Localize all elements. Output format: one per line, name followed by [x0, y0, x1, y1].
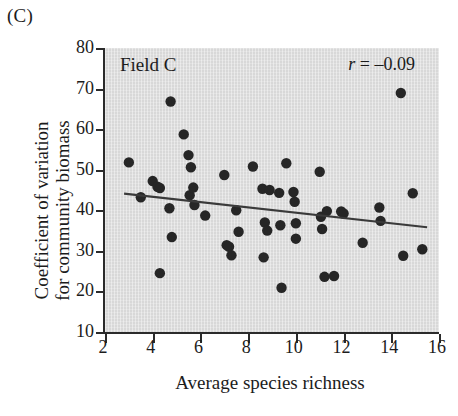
data-point: [258, 252, 268, 262]
data-point: [288, 187, 298, 197]
data-point: [167, 232, 177, 242]
data-point: [315, 167, 325, 177]
data-point: [317, 224, 327, 234]
data-point: [155, 268, 165, 278]
y-axis-tick: [96, 210, 105, 212]
data-points-group: [124, 88, 428, 293]
y-axis-tick: [96, 251, 105, 253]
data-point: [374, 202, 384, 212]
y-axis-tick-label: 20: [58, 281, 94, 302]
y-axis-tick-label: 60: [58, 118, 94, 139]
data-point: [417, 244, 427, 254]
data-point: [179, 129, 189, 139]
x-axis-tick-labels: 246810121416: [103, 337, 437, 363]
figure-panel-c: (C) Coefficient of variation for communi…: [0, 0, 458, 416]
y-axis-title-line1: Coefficient of variation: [31, 122, 52, 300]
y-axis-tick: [96, 48, 105, 50]
data-point: [183, 150, 193, 160]
data-point: [136, 192, 146, 202]
data-point: [188, 182, 198, 192]
data-point: [155, 183, 165, 193]
x-axis-tick-label: 8: [231, 337, 261, 358]
y-axis-tick-label: 80: [58, 37, 94, 58]
data-point: [319, 272, 329, 282]
y-axis-tick: [96, 170, 105, 172]
data-point: [289, 197, 299, 207]
data-point: [186, 162, 196, 172]
data-point: [275, 220, 285, 230]
y-axis-tick: [96, 89, 105, 91]
data-point: [357, 238, 367, 248]
data-point: [248, 161, 258, 171]
data-point: [291, 218, 301, 228]
y-axis-tick: [96, 291, 105, 293]
x-axis-title: Average species richness: [103, 372, 437, 394]
data-point: [396, 88, 406, 98]
data-point: [124, 157, 134, 167]
data-point: [274, 188, 284, 198]
scatter-svg: [105, 48, 439, 332]
x-axis-tick-label: 12: [327, 337, 357, 358]
y-axis-tick-labels: 1020304050607080: [58, 48, 94, 332]
x-axis-tick-label: 4: [136, 337, 166, 358]
y-axis-tick-label: 40: [58, 199, 94, 220]
data-point: [281, 158, 291, 168]
data-point: [164, 203, 174, 213]
y-axis-tick-label: 50: [58, 159, 94, 180]
x-axis-tick-label: 14: [374, 337, 404, 358]
y-axis-tick-label: 30: [58, 240, 94, 261]
panel-letter: (C): [7, 5, 33, 27]
data-point: [291, 233, 301, 243]
data-point: [226, 250, 236, 260]
data-point: [219, 170, 229, 180]
plot-area: Field C r = –0.09: [103, 48, 439, 334]
y-axis-tick: [96, 129, 105, 131]
x-axis-tick-label: 16: [422, 337, 452, 358]
data-point: [233, 227, 243, 237]
x-axis-tick-label: 10: [279, 337, 309, 358]
x-axis-tick-label: 6: [183, 337, 213, 358]
data-point: [264, 185, 274, 195]
data-point: [262, 225, 272, 235]
y-axis-tick: [96, 332, 105, 334]
data-point: [165, 96, 175, 106]
y-axis-tick-label: 70: [58, 78, 94, 99]
data-point: [276, 283, 286, 293]
data-point: [408, 188, 418, 198]
data-point: [200, 210, 210, 220]
data-point: [398, 251, 408, 261]
data-point: [329, 271, 339, 281]
x-axis-tick-label: 2: [88, 337, 118, 358]
